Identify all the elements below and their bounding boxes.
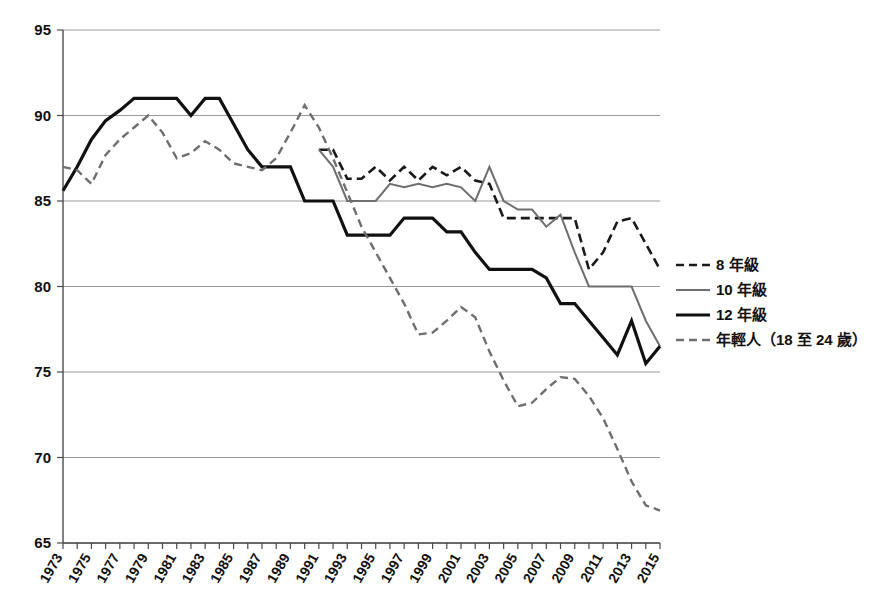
x-tick-label-2001: 2001: [434, 550, 464, 585]
x-tick-label-1979: 1979: [121, 550, 151, 585]
x-tick-label-2015: 2015: [633, 550, 663, 585]
x-tick-label-1977: 1977: [93, 550, 123, 585]
y-axis-group: 65707580859095: [34, 21, 63, 551]
legend-group: 8 年級10 年級12 年級年輕人（18 至 24 歲）: [676, 256, 867, 348]
legend-label-1: 10 年級: [716, 281, 767, 298]
legend-label-3: 年輕人（18 至 24 歲）: [716, 331, 867, 348]
series-line-2: [63, 98, 660, 363]
x-tick-label-1997: 1997: [377, 550, 407, 585]
x-tick-label-1989: 1989: [264, 550, 294, 585]
x-tick-label-2009: 2009: [548, 550, 578, 585]
x-tick-label-1995: 1995: [349, 550, 379, 585]
series-group: [63, 98, 660, 510]
y-tick-label-65: 65: [34, 534, 51, 551]
y-tick-label-70: 70: [34, 449, 51, 466]
y-tick-label-80: 80: [34, 278, 51, 295]
y-tick-label-85: 85: [34, 192, 51, 209]
legend-label-2: 12 年級: [716, 306, 767, 323]
series-line-1: [319, 150, 660, 347]
y-tick-label-90: 90: [34, 107, 51, 124]
line-chart: 65707580859095 1973197519771979198119831…: [0, 0, 889, 606]
x-tick-label-2003: 2003: [463, 550, 493, 585]
x-axis-group: 1973197519771979198119831985198719891991…: [36, 543, 663, 585]
x-tick-label-1975: 1975: [65, 550, 95, 585]
x-tick-label-1985: 1985: [207, 550, 237, 585]
x-tick-label-1991: 1991: [292, 550, 322, 585]
x-tick-label-2005: 2005: [491, 550, 521, 585]
y-tick-label-75: 75: [34, 363, 51, 380]
x-tick-label-2011: 2011: [577, 550, 606, 584]
x-tick-label-2007: 2007: [519, 550, 549, 585]
x-tick-label-1973: 1973: [36, 550, 66, 585]
x-tick-label-1999: 1999: [406, 550, 436, 585]
gridlines-group: [63, 30, 660, 543]
x-tick-label-1987: 1987: [235, 550, 265, 585]
x-tick-label-1981: 1981: [150, 550, 180, 585]
series-line-3: [63, 105, 660, 510]
x-tick-label-2013: 2013: [605, 550, 635, 585]
x-tick-label-1983: 1983: [178, 550, 208, 585]
y-tick-label-95: 95: [34, 21, 51, 38]
x-tick-label-1993: 1993: [320, 550, 350, 585]
chart-container: 65707580859095 1973197519771979198119831…: [0, 0, 889, 606]
legend-label-0: 8 年級: [716, 256, 759, 273]
